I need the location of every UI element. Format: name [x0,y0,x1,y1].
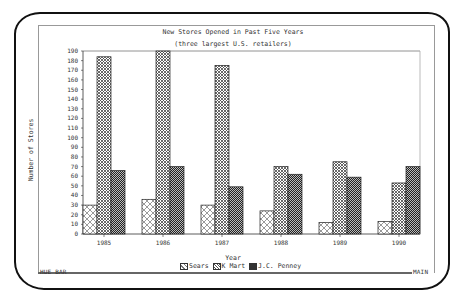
chart-bars [83,51,420,234]
y-tick-label: 50 [71,182,79,189]
x-tick-label: 1989 [333,239,348,246]
y-tick-label: 20 [71,211,79,218]
y-tick-label: 10 [71,220,79,227]
bar-sears-1986 [142,199,156,234]
bar-k-mart-1988 [274,167,288,234]
x-tick-label: 1990 [392,239,407,246]
bar-j-c-penney-1990 [406,167,420,234]
legend-item-jcpenney: J.C. Penney [249,262,301,270]
y-tick-label: 60 [71,172,79,179]
x-tick-label: 1988 [274,239,289,246]
legend-item-sears: Sears [180,262,209,270]
y-tick-label: 140 [67,95,78,102]
y-tick-label: 90 [71,143,79,150]
y-tick-label: 40 [71,191,79,198]
legend-swatch-sears [180,263,188,270]
y-tick-label: 130 [67,105,78,112]
bar-sears-1985 [83,205,97,234]
bar-j-c-penney-1987 [229,187,243,234]
y-tick-label: 190 [67,47,78,54]
bar-k-mart-1989 [333,162,347,234]
x-tick-label: 1985 [97,239,112,246]
y-tick-label: 0 [74,230,78,237]
y-tick-label: 120 [67,114,78,121]
y-tick-label: 70 [71,163,79,170]
y-tick-label: 150 [67,86,78,93]
x-tick-label: 1986 [156,239,171,246]
bar-j-c-penney-1989 [347,177,361,234]
y-tick-label: 100 [67,134,78,141]
legend-label-sears: Sears [189,262,209,270]
y-tick-label: 160 [67,76,78,83]
bar-k-mart-1987 [215,65,229,234]
y-tick-label: 170 [67,66,78,73]
legend-label-kmart: K Mart [222,262,245,270]
x-tick-label: 1987 [215,239,230,246]
legend-label-jcpenney: J.C. Penney [258,262,301,270]
y-tick-label: 110 [67,124,78,131]
bar-k-mart-1986 [156,51,170,234]
y-tick-label: 180 [67,57,78,64]
legend-swatch-kmart [213,263,221,270]
bar-j-c-penney-1986 [170,167,184,234]
y-tick-label: 30 [71,201,79,208]
legend: Sears K Mart J.C. Penney [180,262,301,270]
bar-sears-1989 [319,222,333,234]
bar-sears-1987 [201,205,215,234]
bar-k-mart-1985 [97,57,111,234]
bar-j-c-penney-1985 [111,170,125,234]
bar-sears-1990 [378,221,392,234]
bar-k-mart-1990 [392,183,406,234]
bar-j-c-penney-1988 [288,174,302,234]
legend-item-kmart: K Mart [213,262,245,270]
bar-sears-1988 [260,211,274,234]
legend-swatch-jcpenney [249,263,257,270]
y-tick-label: 80 [71,153,79,160]
x-axis-label: Year [0,254,466,262]
